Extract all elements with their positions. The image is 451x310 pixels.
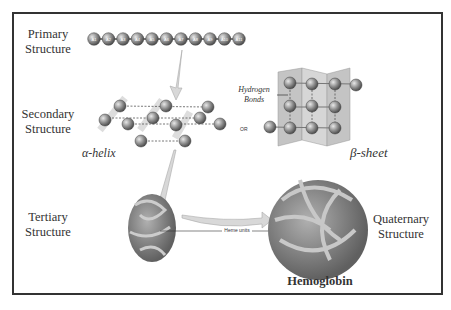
svg-text:A1: A1 bbox=[92, 37, 98, 42]
arrow-tertiary-to-quaternary bbox=[182, 212, 272, 228]
svg-text:A2: A2 bbox=[106, 37, 112, 42]
beta-sheet-graphic bbox=[264, 68, 362, 146]
svg-text:A3: A3 bbox=[121, 37, 127, 42]
svg-text:A9: A9 bbox=[208, 37, 214, 42]
hemoglobin-graphic bbox=[268, 180, 368, 280]
svg-text:A8: A8 bbox=[193, 37, 199, 42]
arrow-primary-to-secondary bbox=[170, 50, 182, 100]
svg-text:A11: A11 bbox=[236, 37, 244, 42]
tertiary-structure-label: Tertiary Structure bbox=[22, 210, 74, 240]
hydrogen-bonds-label: Hydrogen Bonds bbox=[232, 85, 276, 105]
alpha-helix-graphic bbox=[99, 98, 226, 147]
quaternary-structure-label: Quaternary Structure bbox=[370, 212, 432, 242]
heme-units-label: Heme units bbox=[222, 227, 252, 234]
svg-text:A10: A10 bbox=[221, 37, 229, 42]
primary-chain: A1A2A3A4A5A6A7A8A9A10A11 bbox=[88, 33, 246, 46]
or-label: OR bbox=[240, 122, 248, 137]
beta-sheet-label: β-sheet bbox=[350, 145, 388, 161]
primary-structure-label: Primary Structure bbox=[22, 27, 74, 57]
secondary-structure-label: Secondary Structure bbox=[20, 107, 76, 137]
hemoglobin-label: Hemoglobin bbox=[285, 274, 355, 289]
svg-text:A4: A4 bbox=[135, 37, 141, 42]
svg-text:A5: A5 bbox=[150, 37, 156, 42]
alpha-helix-label: α-helix bbox=[82, 146, 116, 161]
svg-text:A7: A7 bbox=[179, 37, 185, 42]
tertiary-protein-graphic bbox=[128, 194, 176, 262]
svg-text:A6: A6 bbox=[164, 37, 170, 42]
